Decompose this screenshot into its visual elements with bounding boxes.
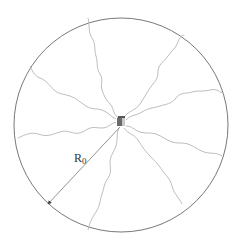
radius-label: R0 bbox=[74, 151, 87, 166]
source-block bbox=[117, 116, 125, 126]
wave-path-left-lower bbox=[18, 122, 116, 138]
wave-path-right-lower bbox=[126, 126, 222, 156]
wave-path-up bbox=[88, 18, 118, 118]
wave-path-right-upper bbox=[126, 89, 224, 120]
wave-path-down bbox=[88, 128, 119, 230]
diffusion-diagram: R0 bbox=[0, 0, 241, 244]
wave-path-upper-right bbox=[124, 35, 184, 117]
wave-path-lower-right bbox=[124, 128, 182, 204]
